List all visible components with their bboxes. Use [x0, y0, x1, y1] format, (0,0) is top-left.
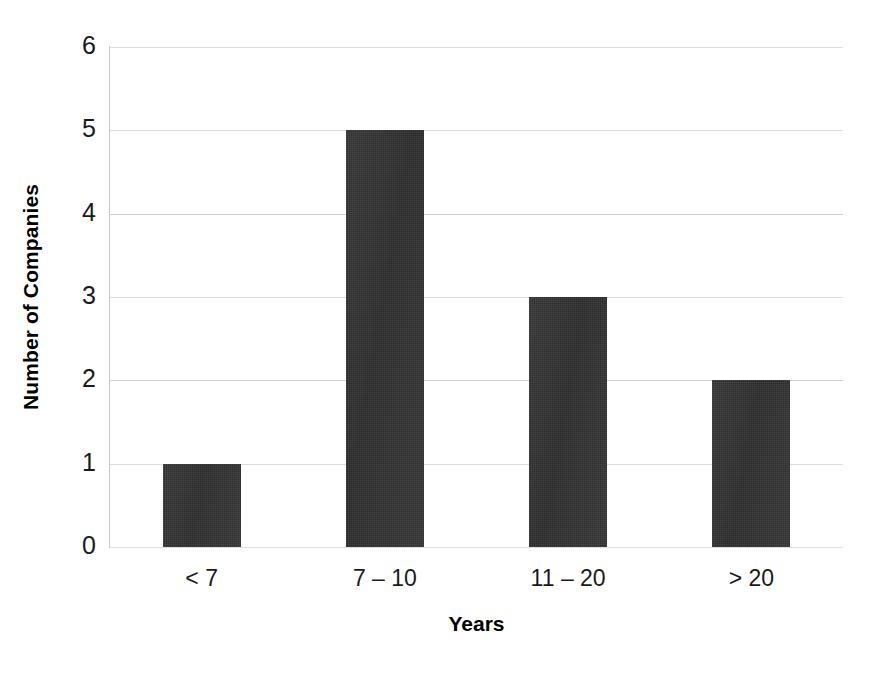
y-axis-tick-label: 0 [52, 533, 96, 558]
bar-chart-figure: Number of Companies 0123456 < 77 – 1011 … [0, 0, 869, 683]
bars-layer [110, 47, 843, 547]
x-axis-tick-label: > 20 [660, 566, 843, 591]
x-axis-tick-label: 7 – 10 [293, 566, 476, 591]
y-axis-title: Number of Companies [14, 47, 48, 547]
bar [163, 464, 241, 547]
y-axis-tick-labels: 0123456 [48, 0, 96, 683]
gridline [110, 547, 843, 548]
y-axis-tick-label: 3 [52, 283, 96, 308]
y-axis-tick-label: 5 [52, 116, 96, 141]
x-axis-tick-label: < 7 [110, 566, 293, 591]
y-axis-tick-label: 4 [52, 200, 96, 225]
bar [529, 297, 607, 547]
x-axis-tick-label: 11 – 20 [477, 566, 660, 591]
y-axis-tick-label: 2 [52, 366, 96, 391]
bar [712, 380, 790, 547]
plot-area [110, 47, 843, 547]
bar [346, 130, 424, 547]
x-axis-title: Years [110, 612, 843, 636]
y-axis-tick-label: 6 [52, 33, 96, 58]
x-axis-tick-labels: < 77 – 1011 – 20> 20 [110, 566, 843, 602]
y-axis-tick-label: 1 [52, 450, 96, 475]
